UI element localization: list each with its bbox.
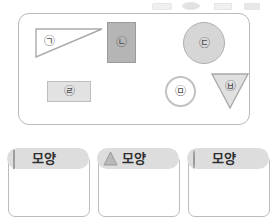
shape-panel: ㉠ ㉡ ㉢ ㉣ ㉤ ㉥ — [18, 13, 250, 125]
shape-label-e: ㉤ — [173, 84, 187, 98]
shape-item-a-triangle[interactable]: ㉠ — [35, 28, 103, 58]
shape-label-f: ㉥ — [223, 79, 237, 93]
sort-card-triangle[interactable]: 모양 — [98, 155, 180, 217]
card-dropzone-circle[interactable] — [189, 176, 269, 216]
shape-item-d-rectangle[interactable]: ㉣ — [47, 81, 91, 102]
shape-item-e-circle[interactable]: ㉤ — [165, 76, 196, 107]
circle-icon — [193, 151, 208, 166]
triangle-icon — [103, 151, 118, 166]
top-cutoff-strip — [0, 0, 274, 10]
shape-item-c-circle[interactable]: ㉢ — [183, 22, 225, 64]
sort-card-square[interactable]: 모양 — [8, 155, 90, 217]
card-header-circle: 모양 — [187, 148, 269, 169]
card-dropzone-triangle[interactable] — [99, 176, 179, 216]
cutoff-ghost-circle — [182, 2, 200, 10]
shape-item-f-triangle[interactable]: ㉥ — [211, 73, 249, 109]
card-label-circle: 모양 — [212, 152, 236, 165]
shape-label-b: ㉡ — [114, 35, 128, 49]
card-dropzone-square[interactable] — [9, 176, 89, 216]
card-label-square: 모양 — [32, 152, 56, 165]
sort-card-circle[interactable]: 모양 — [188, 155, 270, 217]
square-icon — [13, 151, 28, 166]
card-label-triangle: 모양 — [122, 152, 146, 165]
shape-label-a: ㉠ — [42, 34, 56, 48]
sort-card-row: 모양 모양 모양 — [8, 147, 270, 219]
card-header-square: 모양 — [7, 148, 89, 169]
shape-item-b-rectangle[interactable]: ㉡ — [107, 22, 136, 63]
cutoff-ghost-square — [152, 3, 172, 10]
cutoff-ghost-rect — [214, 3, 232, 10]
shape-label-c: ㉢ — [197, 36, 211, 50]
cutoff-ghost-shape — [244, 3, 260, 10]
card-header-triangle: 모양 — [97, 148, 179, 169]
shape-label-d: ㉣ — [62, 84, 76, 98]
